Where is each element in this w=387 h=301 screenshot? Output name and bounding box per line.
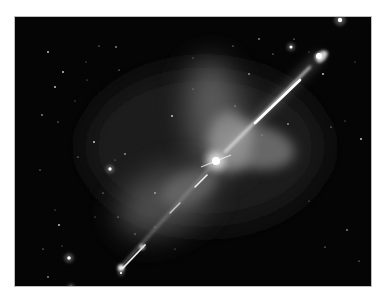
star bbox=[308, 51, 309, 52]
star bbox=[74, 100, 75, 101]
star bbox=[344, 120, 345, 121]
star bbox=[57, 121, 58, 122]
star bbox=[324, 246, 325, 247]
star bbox=[93, 141, 95, 143]
star bbox=[308, 200, 309, 201]
star bbox=[248, 73, 250, 75]
star bbox=[154, 192, 156, 194]
bright-star bbox=[67, 256, 71, 260]
star bbox=[41, 114, 43, 116]
star bbox=[261, 134, 262, 135]
astronomical-photo bbox=[15, 17, 371, 286]
star bbox=[234, 105, 235, 106]
star bbox=[358, 260, 359, 261]
star bbox=[272, 53, 273, 54]
star bbox=[360, 138, 362, 140]
star bbox=[258, 38, 260, 40]
star bbox=[322, 73, 324, 75]
star bbox=[47, 51, 49, 53]
bright-star bbox=[289, 45, 292, 48]
star bbox=[287, 123, 289, 125]
star bbox=[61, 245, 62, 246]
star bbox=[98, 45, 99, 46]
star bbox=[124, 153, 126, 155]
star bbox=[192, 57, 193, 58]
star bbox=[154, 226, 155, 227]
star bbox=[293, 38, 294, 39]
bright-star bbox=[338, 18, 342, 22]
star bbox=[102, 192, 103, 193]
star bbox=[54, 86, 56, 88]
star bbox=[171, 115, 173, 117]
star bbox=[117, 216, 118, 217]
star bbox=[192, 88, 193, 89]
star bbox=[232, 45, 233, 46]
star bbox=[47, 276, 49, 278]
star bbox=[58, 224, 60, 226]
star bbox=[212, 161, 213, 162]
star bbox=[94, 216, 95, 217]
nebula-jet-image bbox=[15, 17, 371, 286]
star bbox=[62, 71, 64, 73]
star bbox=[115, 46, 117, 48]
star bbox=[54, 209, 55, 210]
star bbox=[118, 69, 119, 70]
star bbox=[86, 79, 87, 80]
star bbox=[134, 233, 135, 234]
star bbox=[354, 61, 355, 62]
star bbox=[85, 61, 86, 62]
star bbox=[330, 126, 331, 127]
star bbox=[77, 156, 78, 157]
star bbox=[346, 229, 348, 231]
star bbox=[174, 248, 175, 249]
bright-star bbox=[108, 167, 111, 170]
star bbox=[114, 159, 115, 160]
bright-star bbox=[120, 272, 122, 274]
star bbox=[39, 169, 40, 170]
star bbox=[42, 248, 43, 249]
